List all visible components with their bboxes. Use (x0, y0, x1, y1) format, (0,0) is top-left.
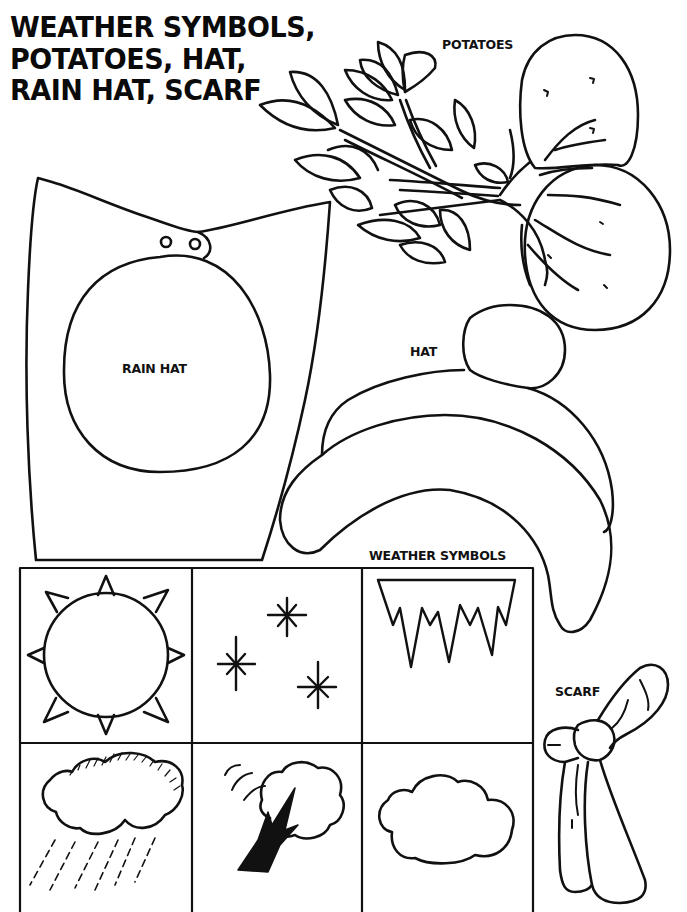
scarf-icon[interactable] (544, 665, 668, 903)
hat-label: HAT (410, 344, 437, 359)
worksheet-artwork (0, 0, 687, 912)
potatoes-label: POTATOES (442, 37, 513, 52)
rain-cloud-icon[interactable] (30, 753, 183, 890)
rain-hat-label: RAIN HAT (122, 361, 187, 376)
sun-icon[interactable] (28, 576, 184, 734)
weather-symbols-label: WEATHER SYMBOLS (369, 548, 506, 563)
icicles-icon[interactable] (378, 580, 515, 667)
winter-hat-icon[interactable] (280, 305, 613, 632)
windy-tree-icon[interactable] (225, 762, 344, 872)
scarf-label: SCARF (555, 684, 600, 699)
cloud-icon[interactable] (379, 775, 513, 863)
stars-icon[interactable] (218, 598, 336, 708)
